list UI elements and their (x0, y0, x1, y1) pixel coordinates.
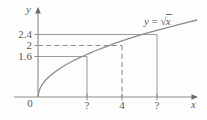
x-tick-label-4: 4 (115, 100, 129, 111)
sqrt-function-figure: y x 0 2.4 2 1.6 ? 4 ? y = √x (0, 0, 207, 120)
function-label: y = √x (144, 16, 172, 27)
x-tick-label-first-unknown: ? (80, 100, 94, 111)
x-axis-label: x (191, 99, 196, 110)
x-tick-label-second-unknown: ? (150, 100, 164, 111)
y-axis-label: y (26, 4, 31, 15)
y-axis-arrowhead (35, 7, 41, 14)
origin-label: 0 (23, 98, 37, 109)
sqrt-curve (38, 20, 197, 97)
radicand: x (166, 14, 172, 27)
y-tick-label-1-6: 1.6 (6, 51, 32, 62)
